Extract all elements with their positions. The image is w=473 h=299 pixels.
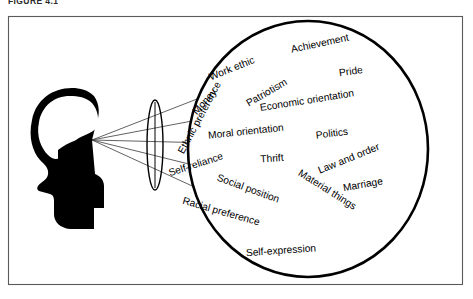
values-circle xyxy=(188,21,428,277)
figure-illustration: AchievementWork ethicPrideMoneyPatriotis… xyxy=(0,0,473,299)
figure-container: FIGURE 4.1 AchievementWork ethic xyxy=(0,0,473,299)
value-label: Thrift xyxy=(260,152,284,165)
